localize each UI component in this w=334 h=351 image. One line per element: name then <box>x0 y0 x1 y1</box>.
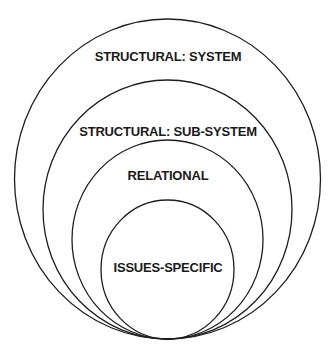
label-relational: RELATIONAL <box>128 168 209 183</box>
nested-circles-diagram: STRUCTURAL: SYSTEM STRUCTURAL: SUB-SYSTE… <box>0 0 334 351</box>
label-structural-sub-system: STRUCTURAL: SUB-SYSTEM <box>79 124 257 139</box>
label-structural-system: STRUCTURAL: SYSTEM <box>95 49 242 64</box>
layer-issues-specific: ISSUES-SPECIFIC <box>101 200 234 339</box>
circle-structural-sub-system <box>43 80 292 339</box>
layer-relational: RELATIONAL <box>72 140 263 339</box>
label-issues-specific: ISSUES-SPECIFIC <box>114 260 224 275</box>
diagram-canvas: STRUCTURAL: SYSTEM STRUCTURAL: SUB-SYSTE… <box>0 0 334 351</box>
layer-structural-sub-system: STRUCTURAL: SUB-SYSTEM <box>43 80 292 339</box>
